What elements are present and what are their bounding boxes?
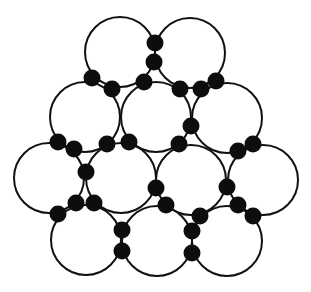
small-interstitial-sphere [184, 223, 201, 240]
small-interstitial-sphere [50, 134, 67, 151]
small-interstitial-sphere [193, 81, 210, 98]
small-interstitial-sphere [86, 195, 103, 212]
small-interstitial-sphere [114, 243, 131, 260]
small-interstitial-sphere [121, 134, 138, 151]
small-interstitial-sphere [84, 70, 101, 87]
small-interstitial-sphere [148, 180, 165, 197]
small-interstitial-sphere [208, 73, 225, 90]
small-interstitial-sphere [183, 118, 200, 135]
small-interstitial-sphere [158, 197, 175, 214]
small-interstitial-sphere [104, 81, 121, 98]
small-interstitial-sphere [114, 222, 131, 239]
small-interstitial-sphere [136, 74, 153, 91]
small-interstitial-sphere [230, 143, 247, 160]
small-interstitial-sphere [99, 136, 116, 153]
small-interstitial-sphere [172, 81, 189, 98]
small-interstitial-sphere [147, 35, 164, 52]
small-interstitial-sphere [245, 136, 262, 153]
small-interstitial-sphere [192, 208, 209, 225]
small-interstitial-sphere [50, 206, 67, 223]
small-interstitial-sphere [230, 197, 247, 214]
small-interstitial-sphere [184, 245, 201, 262]
small-interstitial-sphere [78, 164, 95, 181]
small-interstitial-sphere [68, 195, 85, 212]
small-interstitial-sphere [245, 208, 262, 225]
small-interstitial-sphere [219, 179, 236, 196]
large-sphere [122, 206, 192, 276]
sphere-packing-diagram [0, 0, 311, 292]
small-interstitial-sphere [146, 54, 163, 71]
small-interstitial-sphere [171, 136, 188, 153]
small-interstitial-sphere [66, 141, 83, 158]
